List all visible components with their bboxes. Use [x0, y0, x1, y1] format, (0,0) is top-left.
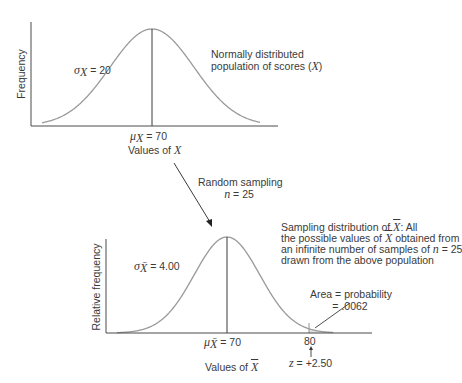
- bottom-description: Sampling distribution of X: All the poss…: [281, 222, 462, 266]
- top-description-line1: Normally distributed: [211, 48, 322, 60]
- variable-n: n: [224, 187, 230, 201]
- sample-size-text: n = 25: [198, 188, 280, 200]
- area-text: Area = probability: [310, 288, 390, 300]
- mu-value: = 70: [220, 336, 241, 348]
- bottom-y-axis-label: Relative frequency: [90, 241, 102, 333]
- variable-xbar: X: [251, 360, 258, 374]
- top-y-axis-label: Frequency: [15, 48, 27, 100]
- random-sampling-text: Random sampling: [198, 176, 280, 188]
- bottom-mu-label: μX̄ = 70: [204, 336, 241, 348]
- text: = 25: [439, 243, 462, 255]
- sigma-value: = 4.00: [150, 260, 180, 272]
- top-chart: [31, 22, 278, 126]
- mu-subscript: X̄: [210, 337, 217, 351]
- random-sampling-label: Random sampling n = 25: [198, 176, 280, 200]
- text: ): [319, 60, 323, 72]
- top-description: Normally distributed population of score…: [211, 48, 322, 72]
- top-mu-label: μX = 70: [130, 130, 167, 142]
- z-value: = +2.50: [297, 357, 333, 369]
- variable-x: X: [311, 59, 318, 73]
- text: Values of: [205, 361, 251, 373]
- variable-x: X: [174, 143, 181, 157]
- top-description-line2: population of scores (X): [211, 60, 322, 72]
- top-sigma-label: σX = 20: [74, 64, 111, 76]
- top-x-axis-label: Values of X: [128, 144, 181, 156]
- mu-subscript: X: [136, 131, 143, 145]
- bottom-sigma-label: σX̄ = 4.00: [134, 260, 180, 272]
- area-probability-label: Area = probability = .0062: [310, 288, 390, 312]
- text: population of scores (: [211, 60, 311, 72]
- sigma-subscript: X: [80, 65, 87, 79]
- variable-z: z: [289, 356, 294, 370]
- n-value: = 25: [233, 188, 254, 200]
- sigma-value: = 20: [90, 64, 111, 76]
- z-score-label: z = +2.50: [289, 357, 332, 369]
- bottom-x-axis-label: Values of X: [205, 361, 258, 373]
- probability-value: = .0062: [310, 300, 390, 312]
- bottom-description-line4: drawn from the above population: [281, 255, 462, 266]
- tick-80-label: 80: [304, 335, 316, 347]
- mu-value: = 70: [146, 130, 167, 142]
- sigma-subscript: X̄: [140, 261, 147, 275]
- text: Values of: [128, 144, 174, 156]
